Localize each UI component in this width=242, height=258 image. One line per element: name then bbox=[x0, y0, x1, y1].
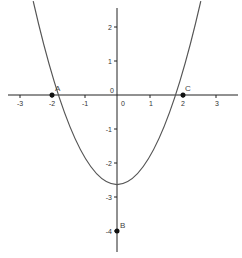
y-tick-label: 2 bbox=[108, 24, 112, 31]
point-c bbox=[181, 93, 186, 98]
x-tick-label: -3 bbox=[17, 100, 23, 107]
point-a-label: A bbox=[55, 84, 61, 93]
point-b bbox=[115, 229, 120, 234]
x-tick-label: -2 bbox=[49, 100, 55, 107]
y-tick-label: -3 bbox=[106, 194, 112, 201]
y-tick-label: 1 bbox=[108, 58, 112, 65]
x-tick-label: 3 bbox=[215, 100, 219, 107]
x-tick-label: -1 bbox=[82, 100, 88, 107]
x-tick-label: 0 bbox=[121, 100, 125, 107]
point-a bbox=[50, 93, 55, 98]
y-tick-label: -2 bbox=[106, 160, 112, 167]
x-tick-label: 2 bbox=[181, 100, 185, 107]
x-tick-label: 1 bbox=[149, 100, 153, 107]
y-tick-label: -1 bbox=[106, 126, 112, 133]
y-tick-label: -4 bbox=[106, 228, 112, 235]
function-graph: -3 -2 -1 0 1 2 3 2 1 0 -1 -2 -3 -4 A B C bbox=[0, 0, 242, 258]
point-c-label: C bbox=[185, 84, 191, 93]
y-tick-label: 0 bbox=[110, 87, 114, 94]
point-b-label: B bbox=[120, 221, 125, 230]
